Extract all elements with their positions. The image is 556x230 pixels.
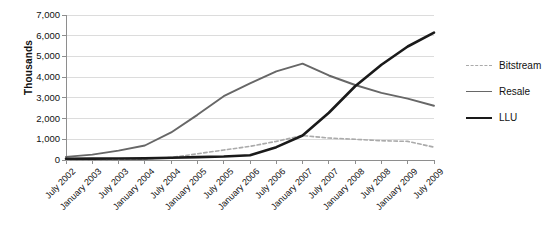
legend: BitstreamResaleLLU	[466, 52, 556, 130]
legend-label: Resale	[499, 86, 530, 97]
legend-swatch-icon	[466, 112, 492, 122]
axis-lines	[66, 15, 434, 160]
legend-swatch-icon	[466, 86, 492, 96]
legend-swatch-icon	[466, 60, 492, 70]
legend-item-resale[interactable]: Resale	[466, 78, 556, 104]
legend-label: LLU	[499, 112, 517, 123]
legend-item-llu[interactable]: LLU	[466, 104, 556, 130]
line-chart: Thousands 7,0006,0005,0004,0003,0002,000…	[0, 0, 556, 230]
series-lines	[66, 33, 434, 160]
legend-item-bitstream[interactable]: Bitstream	[466, 52, 556, 78]
series-line-resale	[66, 64, 434, 157]
legend-label: Bitstream	[499, 60, 541, 71]
gridlines	[66, 15, 434, 160]
axis-ticks	[62, 15, 434, 164]
